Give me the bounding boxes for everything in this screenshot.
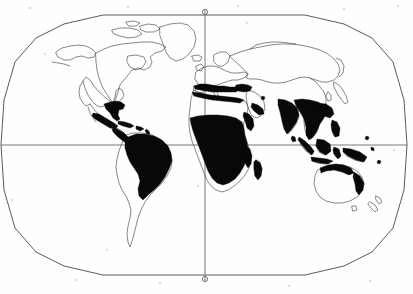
zone-island-speck-2 <box>377 160 381 164</box>
zone-island-speck-3 <box>365 136 369 140</box>
world-distribution-map: Robinson-style oval world projection equ… <box>0 0 413 294</box>
zone-island-speck-4 <box>261 96 265 100</box>
map-canvas <box>0 0 413 294</box>
